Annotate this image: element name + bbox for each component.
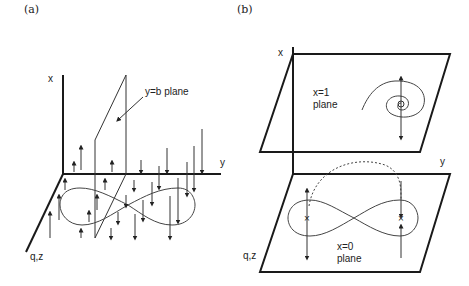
connection-arc: [309, 162, 401, 206]
plane-annotation: y=b plane: [145, 86, 189, 97]
panel-a-label: (a): [24, 3, 39, 16]
y-axis-label: y: [440, 156, 445, 167]
upper-plane-label-line1: x=1: [313, 87, 330, 98]
qz-axis: [26, 174, 63, 252]
qz-axis-label: q,z: [30, 251, 43, 262]
figure-eight-orbit: [60, 188, 195, 225]
lower-plane-label-line1: x=0: [337, 241, 354, 252]
panel-b-label: (b): [237, 3, 253, 16]
upper-plane-label-line2: plane: [313, 99, 338, 110]
panel-a: (a) x y q,z y=b plane: [24, 3, 225, 262]
upward-vector-arrows: [50, 147, 112, 238]
y-axis-label: y: [220, 157, 225, 168]
panel-b: (b) x y q,z x=1 plane x=0 plane × ×: [237, 3, 450, 272]
x-axis-label: x: [48, 73, 53, 84]
annotation-pointer-arrow: [118, 97, 143, 120]
figure: (a) x y q,z y=b plane: [0, 0, 469, 286]
upper-plane-x1: [260, 54, 450, 152]
x-axis-label: x: [278, 47, 283, 58]
y-b-plane: [95, 75, 126, 238]
lower-plane-label-line2: plane: [337, 253, 362, 264]
qz-axis-label: q,z: [243, 250, 256, 261]
left-fixed-point-marker: ×: [304, 213, 310, 224]
right-fixed-point-marker: ×: [398, 213, 404, 224]
spiral-orbit: [362, 81, 424, 117]
